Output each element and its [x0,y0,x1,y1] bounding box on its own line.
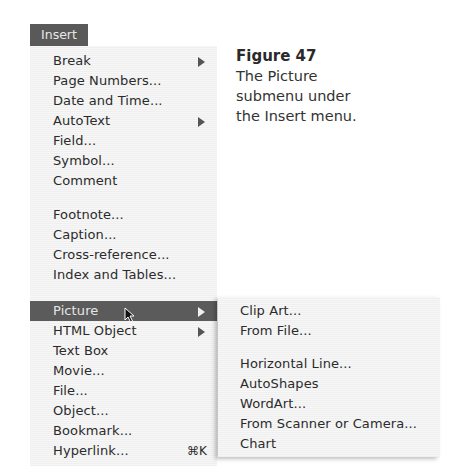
submenu-item-horizontal-line[interactable]: Horizontal Line... [218,354,440,374]
menu-item-label: Object... [53,403,109,418]
menu-item-hyperlink[interactable]: Hyperlink... ⌘K [30,441,217,461]
submenu-item-label: Horizontal Line... [240,356,352,371]
picture-submenu: Clip Art... From File... Horizontal Line… [218,297,440,457]
submenu-item-from-file[interactable]: From File... [218,321,440,341]
mouse-pointer-icon [124,307,136,323]
submenu-item-wordart[interactable]: WordArt... [218,394,440,414]
submenu-arrow-icon [198,57,205,67]
menu-item-break[interactable]: Break [30,51,217,71]
menu-item-caption[interactable]: Caption... [30,225,217,245]
menu-item-label: Cross-reference... [53,247,170,262]
caption-line: submenu under [236,86,436,106]
menu-item-label: AutoText [53,113,110,128]
menu-item-label: HTML Object [53,323,137,338]
menu-item-label: Symbol... [53,153,115,168]
menu-item-label: Page Numbers... [53,73,162,88]
menu-item-bookmark[interactable]: Bookmark... [30,421,217,441]
submenu-arrow-icon [198,327,205,337]
menu-item-index-and-tables[interactable]: Index and Tables... [30,265,217,285]
submenu-item-from-scanner-or-camera[interactable]: From Scanner or Camera... [218,414,440,434]
menu-item-date-and-time[interactable]: Date and Time... [30,91,217,111]
menu-item-label: Movie... [53,363,105,378]
menu-item-movie[interactable]: Movie... [30,361,217,381]
menu-item-label: Picture [53,303,98,318]
submenu-item-label: AutoShapes [240,376,319,391]
menu-item-label: Date and Time... [53,93,163,108]
figure-caption: Figure 47 The Picture submenu under the … [236,46,436,126]
menu-item-symbol[interactable]: Symbol... [30,151,217,171]
menu-item-page-numbers[interactable]: Page Numbers... [30,71,217,91]
submenu-item-autoshapes[interactable]: AutoShapes [218,374,440,394]
caption-line: The Picture [236,66,436,86]
menu-item-cross-reference[interactable]: Cross-reference... [30,245,217,265]
figure-number: Figure 47 [236,46,436,66]
menu-item-label: Bookmark... [53,423,132,438]
caption-line: the Insert menu. [236,106,436,126]
menu-item-label: Hyperlink... [53,443,129,458]
menu-item-label: Index and Tables... [53,267,176,282]
insert-menu: Break Page Numbers... Date and Time... A… [30,46,217,466]
menu-item-autotext[interactable]: AutoText [30,111,217,131]
menu-item-file[interactable]: File... [30,381,217,401]
submenu-item-label: WordArt... [240,396,306,411]
menu-item-text-box[interactable]: Text Box [30,341,217,361]
menu-item-label: Text Box [53,343,108,358]
submenu-item-label: Chart [240,436,276,451]
keyboard-shortcut: ⌘K [187,441,207,461]
menu-item-label: Caption... [53,227,117,242]
submenu-arrow-icon [198,307,205,317]
submenu-item-label: From File... [240,323,312,338]
submenu-item-label: From Scanner or Camera... [240,416,417,431]
insert-menu-title[interactable]: Insert [30,24,88,46]
submenu-arrow-icon [198,117,205,127]
menu-item-label: Field... [53,133,96,148]
menu-item-comment[interactable]: Comment [30,171,217,191]
menu-item-label: Footnote... [53,207,124,222]
menu-item-label: Comment [53,173,117,188]
submenu-item-chart[interactable]: Chart [218,434,440,454]
menu-item-label: Break [53,53,91,68]
menu-item-field[interactable]: Field... [30,131,217,151]
submenu-item-clip-art[interactable]: Clip Art... [218,301,440,321]
menu-item-footnote[interactable]: Footnote... [30,205,217,225]
menu-item-html-object[interactable]: HTML Object [30,321,217,341]
menu-item-object[interactable]: Object... [30,401,217,421]
menu-item-label: File... [53,383,88,398]
submenu-item-label: Clip Art... [240,303,302,318]
